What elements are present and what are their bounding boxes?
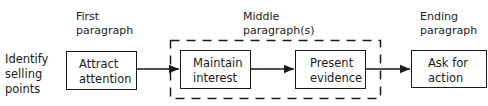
ending-paragraph-heading: Ending paragraph (420, 10, 477, 38)
identify-selling-points-label: Identify selling points (5, 52, 48, 97)
middle-paragraphs-heading: Middle paragraph(s) (243, 10, 315, 38)
attract-attention-box: Attract attention (66, 51, 137, 90)
maintain-interest-box: Maintain interest (180, 50, 251, 89)
present-evidence-box: Present evidence (295, 50, 366, 89)
first-paragraph-heading: First paragraph (76, 10, 133, 38)
ask-for-action-box: Ask for action (411, 50, 487, 88)
